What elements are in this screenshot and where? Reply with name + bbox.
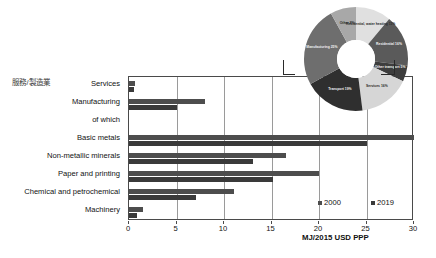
bar-row: [129, 131, 412, 149]
bar-2019: [129, 159, 253, 164]
x-tick-label: 0: [126, 224, 130, 233]
legend-item-2019[interactable]: 2019: [371, 198, 394, 207]
x-axis: 051015202530: [128, 221, 413, 235]
bar-2019: [129, 87, 134, 92]
x-tick-label: 20: [314, 224, 322, 233]
bar-2000: [129, 171, 319, 176]
category-label: Non-metallic minerals: [47, 151, 120, 160]
bar-2019: [129, 213, 137, 218]
legend-label: 2000: [324, 198, 341, 207]
legend-label: 2019: [377, 198, 394, 207]
bar-row: [129, 113, 412, 131]
x-tick-label: 30: [409, 224, 417, 233]
donut-chart-inset: Residential, water heating 11%Residentia…: [293, 4, 419, 114]
bar-2000: [129, 189, 234, 194]
donut-slice-label: Manufacturing 25%: [300, 45, 344, 49]
bar-row: [129, 203, 412, 221]
category-axis: ServicesManufacturingof whichBasic metal…: [0, 76, 124, 220]
bar-2000: [129, 81, 135, 86]
legend-item-2000[interactable]: 2000: [318, 198, 341, 207]
bar-row: [129, 185, 412, 203]
bar-2019: [129, 195, 196, 200]
category-label: Chemical and petrochemical: [24, 187, 120, 196]
bar-2000: [129, 135, 414, 140]
legend-swatch-icon: [371, 201, 375, 205]
donut-slice-label: Residential 16%: [367, 42, 411, 46]
x-tick-label: 10: [219, 224, 227, 233]
leader-line-left: [283, 74, 295, 75]
donut-slice-label: Other transport 5%: [368, 65, 412, 69]
bar-2000: [129, 99, 205, 104]
chart-canvas: 服務/製造業 ServicesManufacturingof whichBasi…: [0, 0, 436, 258]
category-label: of which: [92, 115, 120, 124]
bar-2000: [129, 153, 286, 158]
bar-2019: [129, 141, 367, 146]
category-label: Paper and printing: [58, 169, 120, 178]
category-label: Services: [91, 79, 120, 88]
leader-line-right: [381, 74, 395, 75]
leader-line-right-vert: [394, 60, 395, 75]
x-tick-label: 5: [173, 224, 177, 233]
x-tick-label: 25: [361, 224, 369, 233]
category-label: Basic metals: [77, 133, 120, 142]
leader-line-left-vert: [283, 60, 284, 75]
bar-2019: [129, 177, 273, 182]
donut-slice-label: Transport 19%: [318, 87, 362, 91]
bar-2000: [129, 207, 143, 212]
category-label: Machinery: [85, 205, 120, 214]
category-label: Manufacturing: [72, 97, 120, 106]
bar-row: [129, 149, 412, 167]
donut-slice-label: Other 8%: [325, 21, 369, 25]
bar-row: [129, 167, 412, 185]
bar-2019: [129, 105, 177, 110]
x-axis-title: MJ/2015 USD PPP: [302, 233, 369, 242]
x-tick-label: 15: [266, 224, 274, 233]
legend-swatch-icon: [318, 201, 322, 205]
